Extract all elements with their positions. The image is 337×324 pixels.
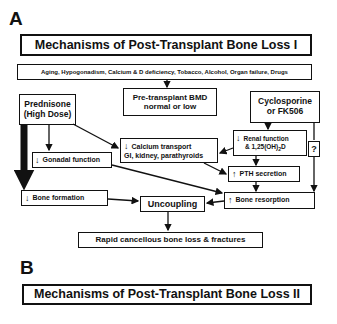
panel-b-label: B: [20, 257, 34, 279]
panel-b-title: Mechanisms of Post-Transplant Bone Loss …: [22, 284, 312, 305]
connector-arrows: [0, 0, 337, 324]
